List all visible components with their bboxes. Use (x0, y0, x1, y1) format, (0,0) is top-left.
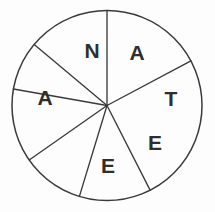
sector-letter-3: E (101, 154, 115, 177)
sector-letter-0: N (84, 39, 99, 62)
sector-letter-6: A (129, 41, 144, 64)
letter-wheel-figure: N A E E T A (0, 0, 215, 212)
sector-letter-4: E (148, 131, 162, 154)
sector-letter-1: A (37, 86, 52, 109)
letter-wheel-svg: N A E E T A (0, 0, 215, 212)
sector-letter-5: T (165, 87, 178, 110)
